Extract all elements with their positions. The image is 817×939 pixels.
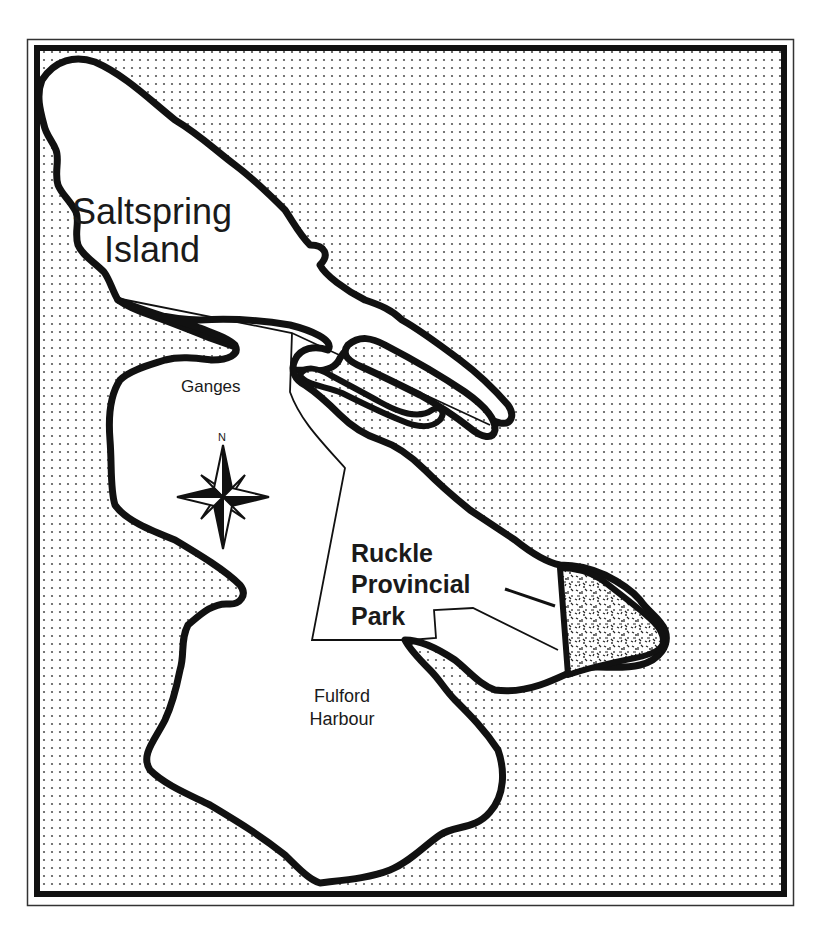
label-island-line1: Saltspring (52, 193, 252, 231)
label-north: N (218, 432, 226, 444)
label-fulford-line2: Harbour (290, 708, 394, 731)
label-park-line1: Ruckle (351, 538, 471, 569)
label-saltspring-island: Saltspring Island (52, 193, 252, 269)
label-park-line2: Provincial (351, 569, 471, 600)
map-canvas (0, 0, 817, 939)
label-fulford-harbour: Fulford Harbour (290, 685, 394, 730)
label-island-line2: Island (52, 231, 252, 269)
label-park-line3: Park (351, 601, 471, 632)
label-ganges: Ganges (181, 378, 241, 396)
label-ruckle-provincial-park: Ruckle Provincial Park (351, 538, 471, 632)
label-fulford-line1: Fulford (290, 685, 394, 708)
